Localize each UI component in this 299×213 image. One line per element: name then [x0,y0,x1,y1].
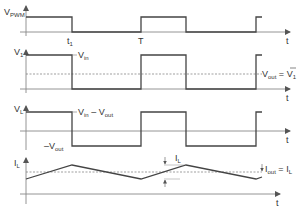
period-marker-label: T [138,36,144,46]
plot-vl: VL Vin – Vout –Vout t [14,104,290,152]
vpwm-waveform [26,17,262,32]
vin-label: Vin [78,50,89,61]
plot-il: IL IL Iout = IL t [14,153,293,208]
vout-avg-label: Vout = V1 [262,69,297,80]
vpwm-ylabel: VPWM [4,7,25,18]
v1-ylabel: V1 [14,47,24,58]
iout-avg-label: Iout = IL [265,164,293,175]
t1-marker-label: t1 [67,36,74,47]
vl-ylabel: VL [14,104,24,115]
vin-minus-vout-label: Vin – Vout [78,107,113,118]
plot-vpwm: VPWM t1 T t [4,6,290,47]
vl-xlabel: t [286,135,289,145]
vl-waveform [26,112,262,146]
neg-vout-label: –Vout [44,141,64,152]
vpwm-xlabel: t [286,36,289,46]
il-ylabel: IL [14,158,21,169]
v1-waveform [26,55,262,89]
ripple-label: IL [175,153,182,164]
v1-xlabel: t [286,93,289,103]
waveform-diagram: VPWM t1 T t V1 Vin Vout = V1 t VL Vin – … [0,0,299,213]
il-xlabel: t [276,198,279,208]
plot-v1: V1 Vin Vout = V1 t [14,47,297,103]
